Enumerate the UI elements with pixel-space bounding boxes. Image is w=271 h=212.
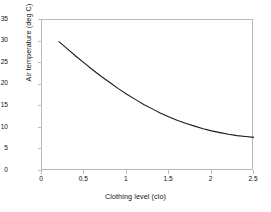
x-tick-mark — [83, 170, 84, 174]
y-tick-label: 30 — [0, 37, 8, 44]
y-tick-label: 20 — [0, 80, 8, 87]
x-tick-label: 0.5 — [71, 176, 95, 183]
x-axis-title: Clothing level (clo) — [0, 192, 271, 201]
x-tick-label: 2 — [199, 176, 223, 183]
y-tick-mark — [38, 19, 42, 20]
x-tick-mark — [253, 170, 254, 174]
y-tick-mark — [38, 41, 42, 42]
y-tick-mark — [38, 84, 42, 85]
y-tick-mark — [38, 127, 42, 128]
x-tick-label: 0 — [29, 176, 53, 183]
y-tick-label: 25 — [0, 59, 8, 66]
x-tick-label: 1 — [114, 176, 138, 183]
y-tick-mark — [38, 105, 42, 106]
x-tick-mark — [211, 170, 212, 174]
plot-area — [41, 19, 253, 170]
data-series-line — [59, 42, 254, 138]
y-tick-label: 15 — [0, 102, 8, 109]
y-tick-label: 35 — [0, 16, 8, 23]
y-axis-title: Air temperature (deg C) — [24, 0, 33, 107]
chart-figure: Air temperature (deg C) 05101520253035 C… — [0, 0, 271, 212]
y-tick-mark — [38, 148, 42, 149]
x-tick-mark — [41, 170, 42, 174]
y-tick-label: 5 — [0, 145, 8, 152]
plot-svg — [42, 20, 254, 171]
x-tick-mark — [168, 170, 169, 174]
x-tick-label: 2.5 — [241, 176, 265, 183]
y-tick-label: 0 — [0, 167, 8, 174]
y-tick-label: 10 — [0, 124, 8, 131]
y-tick-mark — [38, 62, 42, 63]
x-tick-label: 1.5 — [156, 176, 180, 183]
x-tick-mark — [126, 170, 127, 174]
